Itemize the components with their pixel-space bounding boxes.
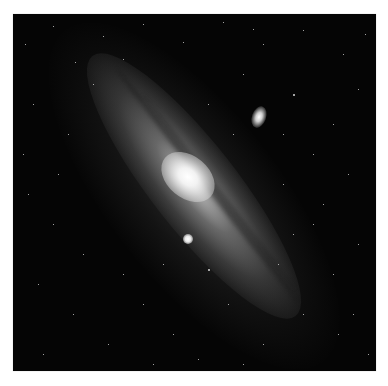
star bbox=[123, 59, 124, 60]
star bbox=[353, 314, 354, 315]
star bbox=[333, 124, 334, 125]
star bbox=[143, 304, 144, 305]
star bbox=[53, 26, 54, 27]
star bbox=[233, 134, 234, 135]
star bbox=[163, 264, 164, 265]
star bbox=[68, 134, 69, 135]
star bbox=[283, 184, 284, 185]
star bbox=[263, 344, 264, 345]
star bbox=[153, 364, 154, 365]
star bbox=[293, 234, 294, 235]
star bbox=[243, 74, 244, 75]
star bbox=[263, 44, 264, 45]
star bbox=[93, 84, 94, 85]
star bbox=[33, 104, 34, 105]
star bbox=[43, 354, 44, 355]
star bbox=[103, 36, 104, 37]
star bbox=[208, 269, 210, 271]
star bbox=[173, 334, 174, 335]
star bbox=[303, 314, 304, 315]
star bbox=[75, 62, 76, 63]
star bbox=[228, 304, 229, 305]
star bbox=[365, 34, 366, 35]
star bbox=[368, 354, 369, 355]
star bbox=[83, 254, 84, 255]
star bbox=[108, 344, 109, 345]
star bbox=[243, 364, 244, 365]
star bbox=[198, 359, 199, 360]
star bbox=[58, 174, 59, 175]
star bbox=[338, 334, 339, 335]
star bbox=[358, 89, 359, 90]
star bbox=[278, 264, 279, 265]
star bbox=[293, 94, 295, 96]
star bbox=[223, 22, 224, 23]
star bbox=[25, 44, 26, 45]
star bbox=[303, 30, 304, 31]
star bbox=[313, 224, 314, 225]
star bbox=[23, 154, 24, 155]
star bbox=[343, 54, 344, 55]
star bbox=[53, 224, 54, 225]
star bbox=[208, 104, 209, 105]
star bbox=[143, 24, 144, 25]
star bbox=[38, 284, 39, 285]
satellite-galaxy-lower bbox=[183, 234, 193, 244]
star bbox=[28, 194, 29, 195]
satellite-galaxy-upper bbox=[249, 104, 270, 129]
star bbox=[348, 174, 349, 175]
star bbox=[333, 274, 334, 275]
star bbox=[73, 314, 74, 315]
star bbox=[183, 42, 184, 43]
star bbox=[323, 204, 324, 205]
star bbox=[253, 29, 254, 30]
star bbox=[283, 134, 284, 135]
star bbox=[313, 154, 314, 155]
star bbox=[123, 274, 124, 275]
star bbox=[358, 244, 359, 245]
galaxy-photo bbox=[13, 14, 376, 371]
